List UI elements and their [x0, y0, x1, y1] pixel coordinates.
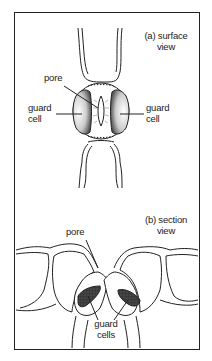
panel-a-title-line2: view: [136, 41, 196, 52]
panel-a-title: (a) surface view: [136, 30, 196, 52]
label-guard-cells-line1: guard: [88, 318, 124, 329]
label-guard-cells: guard cells: [88, 318, 124, 340]
label-guard-cell-left: guard cell: [28, 102, 51, 124]
label-pore-a: pore: [44, 72, 62, 83]
label-guard-cell-right-line2: cell: [146, 113, 169, 124]
label-guard-cells-line2: cells: [88, 329, 124, 340]
label-guard-cell-right: guard cell: [146, 102, 169, 124]
panel-a-title-line1: (a) surface: [136, 30, 196, 41]
label-guard-cell-left-line1: guard: [28, 102, 51, 113]
label-guard-cell-left-line2: cell: [28, 113, 51, 124]
panel-b-title-line1: (b) section: [136, 214, 196, 225]
surface-view-drawing: [56, 28, 144, 188]
panel-b-title: (b) section view: [136, 214, 196, 236]
label-guard-cell-right-line1: guard: [146, 102, 169, 113]
panel-b-title-line2: view: [136, 225, 196, 236]
label-pore-b: pore: [66, 226, 84, 237]
stomata-diagram: [0, 0, 212, 361]
